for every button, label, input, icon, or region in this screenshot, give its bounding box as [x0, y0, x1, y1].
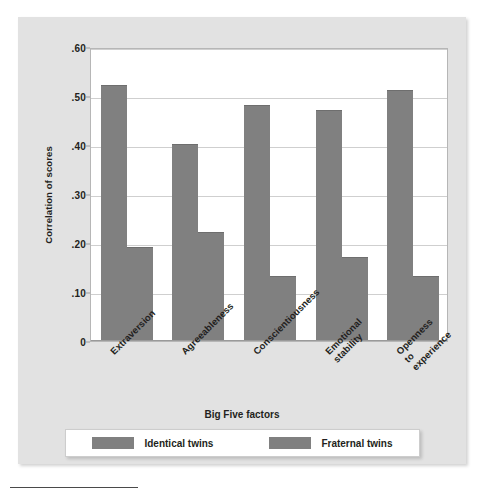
y-axis-ticks: .60.50.40.30.20.100 [38, 48, 86, 342]
gridline [91, 49, 447, 50]
y-tick-label: .10 [46, 288, 86, 299]
y-tick-label: .50 [46, 92, 86, 103]
y-tick-label: 0 [46, 337, 86, 348]
legend-swatch [269, 437, 311, 449]
caption-rule [10, 487, 138, 488]
legend-item: Identical twins [92, 437, 213, 449]
bar [172, 144, 198, 340]
y-tick-label: .30 [46, 190, 86, 201]
legend-item: Fraternal twins [269, 437, 392, 449]
bar [101, 85, 127, 340]
y-tick-label: .40 [46, 141, 86, 152]
legend-label: Fraternal twins [321, 438, 392, 449]
figure-container: Correlation of scores .60.50.40.30.20.10… [0, 0, 486, 500]
bar [316, 110, 342, 340]
legend-label: Identical twins [144, 438, 213, 449]
chart-panel: Correlation of scores .60.50.40.30.20.10… [18, 17, 466, 464]
x-axis-title: Big Five factors [18, 409, 466, 420]
plot-area [90, 48, 448, 342]
y-tick-label: .20 [46, 239, 86, 250]
bar [387, 90, 413, 340]
chart-legend: Identical twinsFraternal twins [65, 429, 420, 457]
y-tick-label: .60 [46, 43, 86, 54]
bar [244, 105, 270, 340]
legend-swatch [92, 437, 134, 449]
